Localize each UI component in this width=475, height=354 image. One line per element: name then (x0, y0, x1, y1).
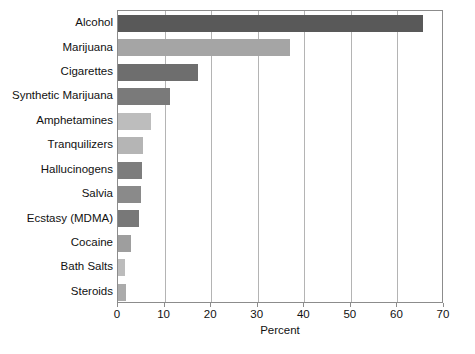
x-tick-mark (257, 303, 258, 307)
bar (118, 235, 131, 252)
x-axis-ticks: 010203040506070 (117, 303, 443, 323)
bar (118, 39, 290, 56)
category-label: Tranquilizers (0, 138, 113, 150)
bar-row (118, 60, 442, 84)
bar-row (118, 84, 442, 108)
bar-chart: AlcoholMarijuanaCigarettesSynthetic Mari… (0, 0, 475, 354)
bar-row (118, 133, 442, 157)
category-label: Hallucinogens (0, 163, 113, 175)
bar (118, 88, 170, 105)
bar (118, 162, 142, 179)
bar (118, 284, 126, 301)
bar-row (118, 158, 442, 182)
x-tick-mark (350, 303, 351, 307)
bar (118, 15, 423, 32)
x-tick-label: 30 (250, 308, 263, 321)
bar-row (118, 280, 442, 304)
bar-row (118, 255, 442, 279)
x-tick-mark (303, 303, 304, 307)
bar (118, 259, 125, 276)
category-label: Marijuana (0, 41, 113, 53)
x-tick-mark (164, 303, 165, 307)
bar (118, 64, 198, 81)
x-tick-label: 10 (157, 308, 170, 321)
bar (118, 113, 151, 130)
plot-area (117, 10, 443, 303)
bar-row (118, 206, 442, 230)
x-tick-label: 40 (297, 308, 310, 321)
category-label: Cigarettes (0, 65, 113, 77)
bar (118, 137, 143, 154)
bar (118, 210, 139, 227)
category-label: Synthetic Marijuana (0, 89, 113, 101)
x-tick-mark (117, 303, 118, 307)
x-tick-mark (443, 303, 444, 307)
x-tick-label: 70 (437, 308, 450, 321)
bar-row (118, 109, 442, 133)
x-tick-label: 0 (114, 308, 120, 321)
category-label: Cocaine (0, 236, 113, 248)
category-label: Bath Salts (0, 260, 113, 272)
bar-row (118, 35, 442, 59)
x-tick-label: 60 (390, 308, 403, 321)
category-label: Alcohol (0, 16, 113, 28)
x-tick-label: 50 (343, 308, 356, 321)
bar-row (118, 11, 442, 35)
x-tick-mark (210, 303, 211, 307)
category-label: Steroids (0, 285, 113, 297)
category-label: Ecstasy (MDMA) (0, 212, 113, 224)
y-axis-labels: AlcoholMarijuanaCigarettesSynthetic Mari… (0, 10, 113, 303)
category-label: Amphetamines (0, 114, 113, 126)
category-label: Salvia (0, 187, 113, 199)
x-axis-title: Percent (117, 324, 443, 337)
bar-row (118, 231, 442, 255)
x-tick-mark (396, 303, 397, 307)
bar-row (118, 182, 442, 206)
bar (118, 186, 141, 203)
x-tick-label: 20 (204, 308, 217, 321)
